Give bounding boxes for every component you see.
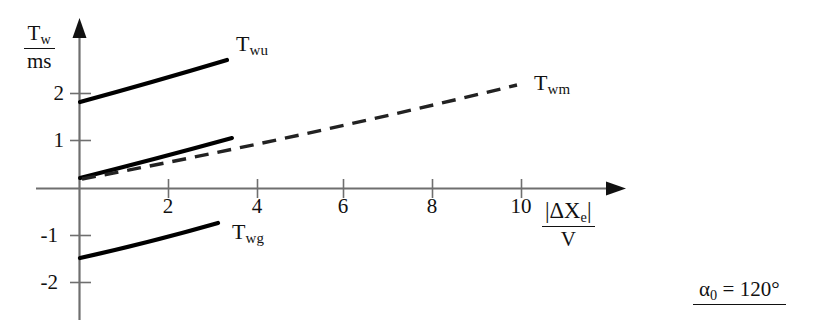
y-axis-label-numerator-base: T <box>28 21 41 45</box>
y-tick-label-1: 1 <box>30 130 64 151</box>
curve-label-twg: Twg <box>232 221 264 246</box>
x-tick-label-8: 8 <box>412 196 452 217</box>
y-axis-arrowhead <box>73 18 87 38</box>
x-axis-label-numerator: |ΔXe| <box>542 199 595 227</box>
y-axis-label-numerator-sub: w <box>40 31 51 47</box>
y-tick-label-2: 2 <box>30 83 64 104</box>
curve-two <box>80 138 232 178</box>
x-tick-label-4: 4 <box>237 196 277 217</box>
curve-label-twu-sub: wu <box>249 42 268 58</box>
x-axis-label-fraction: |ΔXe| V <box>542 199 595 250</box>
y-axis-label-fraction: Tw ms <box>24 22 55 72</box>
x-tick-label-10: 10 <box>501 196 541 217</box>
curve-twu <box>80 60 227 102</box>
annotation-alpha0: α0 = 120° <box>693 279 786 302</box>
curve-twg <box>80 223 218 258</box>
x-axis-label-numerator-post: | <box>587 198 592 223</box>
y-tick-label-minus-1: -1 <box>24 225 58 246</box>
y-axis-label: Tw ms <box>24 22 55 72</box>
x-axis-arrowhead <box>606 182 626 196</box>
annotation-value: = 120° <box>717 277 779 301</box>
figure-root: Tw ms 2 1 -1 -2 2 4 6 8 10 |ΔXe| V Twu T… <box>0 0 832 334</box>
curve-label-twu-base: T <box>236 31 249 56</box>
x-axis-label: |ΔXe| V <box>542 199 595 250</box>
y-tick-label-minus-2: -2 <box>24 272 58 293</box>
annotation-text: α0 = 120° <box>693 277 786 305</box>
annotation-symbol: α <box>699 277 710 301</box>
x-axis-label-numerator-pre: |ΔX <box>545 198 581 223</box>
curve-label-twg-sub: wg <box>245 230 264 246</box>
curve-label-twm-base: T <box>534 70 547 95</box>
x-axis-label-denominator: V <box>542 227 595 250</box>
x-tick-label-2: 2 <box>148 196 188 217</box>
y-axis-label-numerator: Tw <box>24 22 55 49</box>
curve-label-twm-sub: wm <box>547 81 570 97</box>
y-axis-label-denominator: ms <box>24 49 55 72</box>
curve-label-twg-base: T <box>232 219 245 244</box>
curve-label-twm: Twm <box>534 72 570 97</box>
curve-twm <box>82 85 517 179</box>
curve-label-twu: Twu <box>236 33 268 58</box>
x-tick-label-6: 6 <box>323 196 363 217</box>
